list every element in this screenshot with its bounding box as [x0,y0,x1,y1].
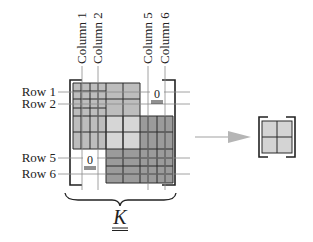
column-2-label: Column 2 [90,12,105,64]
zero-bottom-left: 0 [83,152,97,169]
row-6-label: Row 6 [22,166,57,181]
arrow-icon [195,131,251,143]
row-5-label: Row 5 [22,150,56,165]
row-labels: Row 1 Row 2 Row 5 Row 6 [22,84,57,181]
zero-top-right: 0 [150,86,164,103]
row-2-label: Row 2 [22,96,56,111]
matrix-symbol-k: K [112,206,128,228]
zero-top-right-label: 0 [154,87,160,101]
column-1-label: Column 1 [74,12,89,64]
column-labels: Column 1 Column 2 Column 5 Column 6 [74,12,172,64]
element-matrix [259,117,295,157]
column-6-label: Column 6 [157,12,172,64]
element-assembly-diagram: Column 1 Column 2 Column 5 Column 6 Row … [0,0,313,242]
zero-bottom-left-label: 0 [87,153,93,167]
column-5-label: Column 5 [140,12,155,64]
curly-brace [65,193,176,206]
